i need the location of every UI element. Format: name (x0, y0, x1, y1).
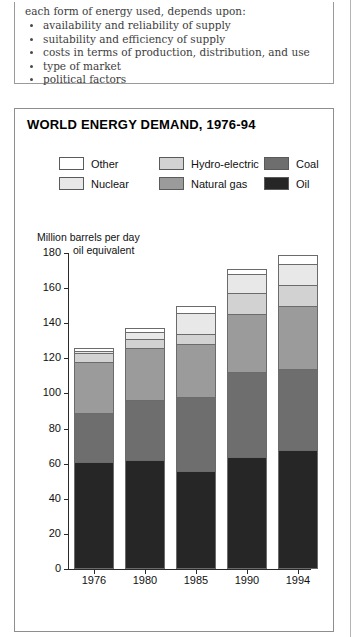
bullet-dot-icon (30, 78, 33, 81)
bar-segment-other (278, 255, 318, 264)
bar-segment-oil (176, 471, 216, 569)
list-item: suitability and efficiency of supply (23, 33, 325, 47)
plot-area: 0204060801001201401601801976198019851990… (15, 109, 335, 633)
bullet-dot-icon (30, 65, 33, 68)
bar-1990[interactable] (227, 253, 267, 569)
y-axis-tick-mark (64, 323, 69, 324)
y-axis-tick-label: 0 (31, 562, 61, 574)
bar-1976[interactable] (74, 253, 114, 569)
bar-segment-natural-gas (74, 362, 114, 413)
y-axis-tick-mark (64, 464, 69, 465)
x-axis-tick-mark (196, 570, 197, 574)
y-axis-tick-mark (64, 393, 69, 394)
bar-1980[interactable] (125, 253, 165, 569)
y-axis-tick-label: 160 (31, 281, 61, 293)
bar-segment-coal (227, 372, 267, 456)
x-axis-tick-mark (247, 570, 248, 574)
x-axis-tick-mark (145, 570, 146, 574)
x-axis-tick-label: 1990 (220, 574, 274, 586)
bar-1985[interactable] (176, 253, 216, 569)
bar-segment-hydro-electric (74, 353, 114, 362)
y-axis-tick-label: 100 (31, 386, 61, 398)
y-axis-tick-label: 40 (31, 492, 61, 504)
y-axis-tick-mark (64, 429, 69, 430)
bar-segment-natural-gas (125, 348, 165, 401)
bar-segment-nuclear (125, 332, 165, 339)
y-axis-tick-label: 120 (31, 351, 61, 363)
bar-chart: 0204060801001201401601801976198019851990… (15, 109, 335, 633)
list-item: type of market (23, 60, 325, 74)
list-item-label: availability and reliability of supply (43, 19, 231, 31)
bar-segment-oil (227, 457, 267, 569)
figure-panel: WORLD ENERGY DEMAND, 1976-94 Other Nucle… (14, 108, 334, 632)
list-item-label: political factors (43, 73, 126, 85)
y-axis-tick-mark (64, 288, 69, 289)
bar-segment-oil (278, 450, 318, 569)
y-axis-tick-mark (64, 358, 69, 359)
bullet-dot-icon (30, 24, 33, 27)
bar-segment-hydro-electric (278, 285, 318, 306)
bar-segment-hydro-electric (176, 334, 216, 345)
x-axis-tick-label: 1976 (67, 574, 121, 586)
list-item: costs in terms of production, distributi… (23, 46, 325, 60)
y-axis-tick-label: 20 (31, 527, 61, 539)
y-axis-line (68, 253, 69, 570)
x-axis-tick-mark (298, 570, 299, 574)
x-axis-tick-mark (94, 570, 95, 574)
list-item-label: type of market (43, 60, 121, 72)
x-axis-tick-label: 1985 (169, 574, 223, 586)
list-item: political factors (23, 73, 325, 87)
intro-line: each form of energy used, depends upon: (25, 4, 325, 18)
bar-segment-other (176, 306, 216, 313)
bullet-dot-icon (30, 38, 33, 41)
bar-segment-natural-gas (278, 306, 318, 369)
intro-text-panel: each form of energy used, depends upon: … (14, 2, 334, 84)
y-axis-tick-mark (64, 499, 69, 500)
bullet-dot-icon (30, 51, 33, 54)
bar-segment-natural-gas (176, 344, 216, 397)
bar-segment-natural-gas (227, 314, 267, 372)
y-axis-tick-mark (64, 569, 69, 570)
list-item-label: suitability and efficiency of supply (43, 33, 225, 45)
bar-segment-coal (278, 369, 318, 450)
y-axis-tick-label: 60 (31, 457, 61, 469)
bar-1994[interactable] (278, 253, 318, 569)
bar-segment-oil (74, 462, 114, 569)
y-axis-tick-label: 80 (31, 422, 61, 434)
x-axis-line (68, 569, 311, 570)
bar-segment-coal (125, 400, 165, 460)
bullet-list: availability and reliability of supply s… (23, 19, 325, 87)
x-axis-tick-label: 1994 (271, 574, 325, 586)
y-axis-tick-label: 140 (31, 316, 61, 328)
y-axis-tick-label: 180 (31, 246, 61, 258)
bar-segment-nuclear (227, 274, 267, 293)
y-axis-tick-mark (64, 253, 69, 254)
bar-segment-coal (74, 413, 114, 462)
bar-segment-nuclear (176, 313, 216, 334)
bar-segment-hydro-electric (125, 339, 165, 348)
list-item-label: costs in terms of production, distributi… (43, 46, 310, 58)
bar-segment-coal (176, 397, 216, 471)
list-item: availability and reliability of supply (23, 19, 325, 33)
y-axis-tick-mark (64, 534, 69, 535)
page-edge-rule (350, 0, 351, 637)
bar-segment-nuclear (278, 264, 318, 285)
x-axis-tick-label: 1980 (118, 574, 172, 586)
bar-segment-oil (125, 460, 165, 569)
bar-segment-hydro-electric (227, 293, 267, 314)
